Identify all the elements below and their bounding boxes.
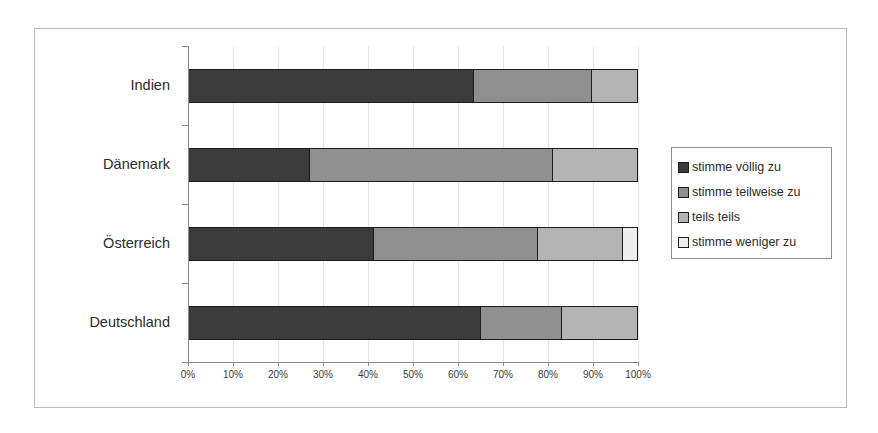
category-axis-label: Deutschland: [30, 314, 182, 330]
legend-item-label: stimme teilweise zu: [692, 186, 800, 199]
gridline: [638, 46, 639, 362]
y-axis-tick: [182, 46, 188, 47]
bar-segment: [189, 70, 473, 102]
legend-swatch-icon: [678, 187, 689, 198]
y-axis-tick: [182, 125, 188, 126]
legend-item-label: stimme weniger zu: [692, 236, 796, 249]
plot-area: [188, 46, 638, 362]
category-axis-labels: IndienDänemarkÖsterreichDeutschland: [34, 46, 182, 362]
x-axis-tick: [323, 362, 324, 366]
x-axis-tick-label: 70%: [483, 369, 523, 380]
bar-segment: [373, 228, 537, 260]
x-axis-tick: [458, 362, 459, 366]
x-axis-tick-label: 10%: [213, 369, 253, 380]
bar-segment: [473, 70, 591, 102]
x-axis-tick: [593, 362, 594, 366]
x-axis-tick-label: 40%: [348, 369, 388, 380]
legend-swatch-icon: [678, 162, 689, 173]
stacked-bar: [188, 69, 638, 103]
x-axis-tick: [188, 362, 189, 366]
bar-segment: [309, 149, 553, 181]
y-axis-tick: [182, 283, 188, 284]
x-axis-tick: [278, 362, 279, 366]
bar-segment: [591, 70, 637, 102]
category-axis-label: Dänemark: [30, 156, 182, 172]
y-axis-tick: [182, 362, 188, 363]
legend-item-label: stimme völlig zu: [692, 161, 781, 174]
x-axis-tick-label: 80%: [528, 369, 568, 380]
stacked-bar: [188, 227, 638, 261]
legend-item: stimme teilweise zu: [678, 180, 826, 205]
x-axis-tick: [233, 362, 234, 366]
stacked-bar: [188, 148, 638, 182]
x-axis-tick: [368, 362, 369, 366]
x-axis-tick-label: 50%: [393, 369, 433, 380]
x-axis-tick-label: 20%: [258, 369, 298, 380]
bar-segment: [480, 307, 561, 339]
bar-segment: [622, 228, 637, 260]
y-axis-tick: [182, 204, 188, 205]
x-axis-tick: [413, 362, 414, 366]
x-axis-tick: [548, 362, 549, 366]
bar-segment: [561, 307, 637, 339]
chart-figure: IndienDänemarkÖsterreichDeutschland 0%10…: [0, 0, 878, 433]
legend-swatch-icon: [678, 237, 689, 248]
category-axis-label: Österreich: [30, 235, 182, 251]
legend-item: teils teils: [678, 205, 826, 230]
chart-legend: stimme völlig zu stimme teilweise zu tei…: [671, 147, 832, 259]
x-axis-tick: [503, 362, 504, 366]
bar-segment: [189, 307, 480, 339]
x-axis-tick-label: 0%: [168, 369, 208, 380]
bar-segment: [537, 228, 622, 260]
bar-segment: [552, 149, 637, 181]
legend-item-label: teils teils: [692, 211, 740, 224]
x-axis-tick: [638, 362, 639, 366]
x-axis-tick-label: 60%: [438, 369, 478, 380]
y-axis-line: [188, 46, 189, 362]
x-axis-tick-label: 90%: [573, 369, 613, 380]
legend-swatch-icon: [678, 212, 689, 223]
legend-item: stimme völlig zu: [678, 155, 826, 180]
x-axis-tick-label: 30%: [303, 369, 343, 380]
bar-segment: [189, 228, 373, 260]
bar-segment: [189, 149, 309, 181]
category-axis-label: Indien: [30, 77, 182, 93]
x-axis-tick-label: 100%: [618, 369, 658, 380]
legend-item: stimme weniger zu: [678, 230, 826, 255]
stacked-bar: [188, 306, 638, 340]
